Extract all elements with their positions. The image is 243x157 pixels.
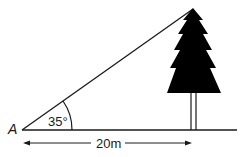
distance-label: 20m xyxy=(96,137,121,150)
arrowhead-left-icon xyxy=(23,141,30,146)
angle-label: 35° xyxy=(48,115,68,128)
arrowhead-right-icon xyxy=(185,141,192,146)
diagram-canvas xyxy=(0,0,243,157)
point-a-label: A xyxy=(8,122,17,136)
sight-line xyxy=(22,9,193,130)
tree-icon xyxy=(167,8,221,93)
